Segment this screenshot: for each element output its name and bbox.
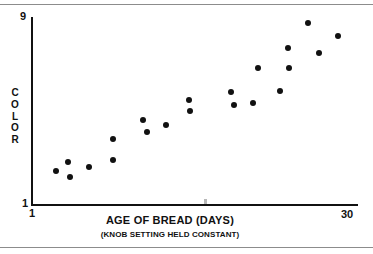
data-point [228, 89, 234, 95]
data-point [67, 174, 73, 180]
data-point [110, 157, 116, 163]
x-axis-max-tick-label: 30 [341, 209, 353, 220]
y-axis-max-tick-label: 9 [20, 11, 26, 22]
data-point [285, 45, 291, 51]
data-point [250, 100, 256, 106]
data-point [305, 20, 311, 26]
data-point [140, 117, 146, 123]
x-axis-subtitle: (KNOB SETTING HELD CONSTANT) [0, 230, 340, 239]
x-axis-title: AGE OF BREAD (DAYS) [0, 214, 340, 226]
data-point [255, 65, 261, 71]
y-axis-min-tick-label: 1 [22, 198, 28, 209]
bottom-divider-rule [0, 247, 373, 248]
y-axis-title-letter: O [11, 123, 19, 134]
data-point [86, 164, 92, 170]
data-point [163, 122, 169, 128]
data-point [286, 65, 292, 71]
data-point [65, 159, 71, 165]
data-point [335, 33, 341, 39]
data-point [144, 129, 150, 135]
y-axis-title-letter: R [11, 135, 18, 146]
top-divider-rule [0, 4, 373, 5]
data-point [186, 97, 192, 103]
y-axis-title-letter: C [11, 88, 18, 99]
y-axis-title-letter: L [12, 112, 18, 123]
chart-figure: 9 1 1 30 C O L O R AGE OF BREAD (DAYS) (… [0, 0, 373, 254]
data-point [231, 102, 237, 108]
data-point [110, 136, 116, 142]
plot-area [31, 17, 358, 205]
data-point [187, 108, 193, 114]
data-point [53, 168, 59, 174]
y-axis-title-letter: O [11, 100, 19, 111]
data-point [316, 50, 322, 56]
y-axis-title: C O L O R [8, 88, 22, 146]
data-point [277, 88, 283, 94]
